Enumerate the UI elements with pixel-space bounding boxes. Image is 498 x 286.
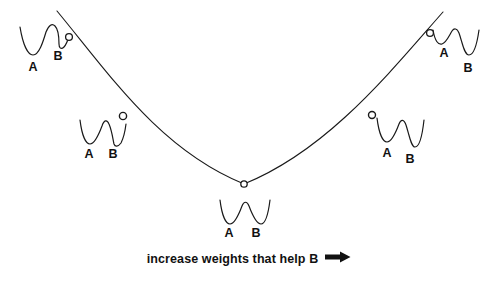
marker-2 [119, 112, 126, 119]
marker-5 [427, 30, 434, 37]
well-2-label-b: B [108, 147, 117, 161]
error-surface-diagram: A B A B A B A B A B [0, 0, 498, 286]
well-4-label-b: B [405, 152, 414, 166]
right-arrow-icon [325, 251, 351, 266]
well-3-label-b: B [251, 226, 260, 240]
marker-3 [241, 181, 247, 187]
diagram-background [0, 0, 498, 286]
well-5-label-a: A [439, 46, 448, 60]
caption: increase weights that help B [0, 252, 498, 267]
well-1-label-b: B [53, 49, 62, 63]
caption-text: increase weights that help B [147, 252, 319, 266]
well-3-label-a: A [224, 226, 233, 240]
well-1-label-a: A [28, 60, 37, 74]
well-5-label-b: B [463, 61, 472, 75]
well-2-label-a: A [84, 147, 93, 161]
marker-1 [66, 34, 73, 41]
marker-4 [369, 112, 376, 119]
well-4-label-a: A [382, 146, 391, 160]
